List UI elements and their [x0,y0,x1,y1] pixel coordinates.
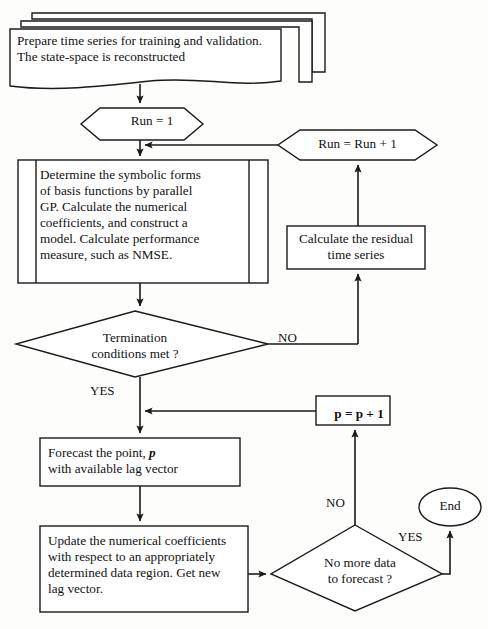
end-terminator-ellipse [419,488,481,526]
gp-process-box [18,160,268,283]
edge-label-termination-yes: YES [90,383,115,399]
edge-no-more-data-yes-to-end [442,531,450,574]
document-sheet-front [10,29,281,89]
flowchart-canvas: Prepare time series for training and val… [0,0,488,629]
p-increment-box [316,396,390,425]
edge-label-no-more-data-yes: YES [398,529,423,545]
edge-label-no-more-data-no: NO [326,495,345,511]
forecast-process-box [40,438,240,486]
residual-process-box [287,226,425,269]
run-increment-hexagon [278,130,437,160]
update-process-box [40,526,248,612]
run-init-hexagon [81,108,203,140]
termination-diamond [16,311,268,377]
edge-label-termination-no: NO [278,330,297,346]
